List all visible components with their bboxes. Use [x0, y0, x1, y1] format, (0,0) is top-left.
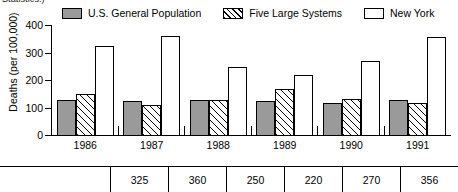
x-axis-tick-label-1988: 1988 — [185, 137, 252, 153]
x-axis-tick-label-1987: 1987 — [119, 137, 186, 153]
table-cell-empty-spacer — [0, 167, 55, 192]
bar-new-york[interactable] — [228, 67, 247, 136]
bar-us-general-population[interactable] — [323, 103, 342, 136]
y-axis-tick-label-400: 400 — [5, 19, 43, 31]
bar-new-york[interactable] — [95, 46, 114, 136]
bar-group-1991 — [385, 25, 452, 136]
data-table-row: 325 360 250 220 270 356 — [0, 166, 458, 192]
table-cell-1988: 250 — [227, 167, 285, 192]
bar-us-general-population[interactable] — [123, 101, 142, 137]
table-cell-1990: 270 — [343, 167, 401, 192]
y-axis-tick — [45, 135, 51, 136]
x-axis-tick-label-1989: 1989 — [252, 137, 319, 153]
y-axis-tick — [45, 53, 51, 54]
bar-us-general-population[interactable] — [389, 100, 408, 136]
x-axis-tick-labels: 1986 1987 1988 1989 1990 1991 — [52, 137, 451, 153]
table-cell-1987: 360 — [169, 167, 227, 192]
table-row-label-cell — [55, 167, 111, 192]
table-cell-1991: 356 — [401, 167, 458, 192]
bar-five-large-systems[interactable] — [342, 99, 361, 136]
x-axis-tick-label-1990: 1990 — [318, 137, 385, 153]
y-axis-tick-label-100: 100 — [5, 102, 43, 114]
bar-five-large-systems[interactable] — [275, 89, 294, 136]
bar-new-york[interactable] — [161, 36, 180, 136]
bar-group-1988 — [185, 25, 252, 136]
bar-group-1989 — [252, 25, 319, 136]
bar-five-large-systems[interactable] — [408, 103, 427, 136]
bar-five-large-systems[interactable] — [209, 100, 228, 136]
table-cell-1989: 220 — [285, 167, 343, 192]
bar-five-large-systems[interactable] — [142, 105, 161, 136]
table-cell-1986: 325 — [111, 167, 169, 192]
bar-new-york[interactable] — [427, 37, 446, 136]
bar-new-york[interactable] — [361, 61, 380, 136]
y-axis-tick-label-0: 0 — [5, 129, 43, 141]
bar-group-1986 — [52, 25, 119, 136]
y-axis-tick — [45, 25, 51, 26]
y-axis-tick-label-300: 300 — [5, 47, 43, 59]
x-axis-tick-label-1991: 1991 — [385, 137, 452, 153]
bar-chart-plot-area: Deaths (per 100,000) 400 300 200 100 0 — [0, 18, 458, 160]
y-axis-tick — [45, 108, 51, 109]
bar-us-general-population[interactable] — [57, 100, 76, 136]
y-axis-tick-label-200: 200 — [5, 74, 43, 86]
bar-us-general-population[interactable] — [256, 101, 275, 136]
y-axis-tick — [45, 80, 51, 81]
bar-five-large-systems[interactable] — [76, 94, 95, 136]
bar-groups — [52, 25, 451, 136]
bar-new-york[interactable] — [294, 75, 313, 136]
x-axis-tick-label-1986: 1986 — [52, 137, 119, 153]
bar-group-1987 — [119, 25, 186, 136]
bar-group-1990 — [318, 25, 385, 136]
bar-us-general-population[interactable] — [190, 100, 209, 136]
